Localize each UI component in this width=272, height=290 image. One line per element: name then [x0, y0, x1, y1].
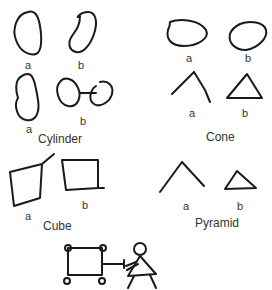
cart-box [68, 248, 102, 275]
cone-label-b-bottom: b [242, 108, 248, 119]
cone-title: Cone [206, 131, 235, 143]
pyramid-title: Pyramid [195, 217, 239, 229]
person-legs [128, 275, 156, 288]
cart-wheel [64, 278, 70, 284]
cylinder-b-top-ellipse [69, 12, 96, 52]
cone-a-profile [172, 72, 210, 102]
cube-title: Cube [43, 220, 72, 232]
cone-b-top-ellipse [230, 22, 267, 50]
cone-label-a-top: a [186, 53, 192, 64]
cone-label-a-bottom: a [189, 108, 195, 119]
person-head [134, 243, 146, 255]
cylinder-b-left-circle [57, 79, 79, 107]
cylinder-a-top-ellipse [15, 12, 42, 55]
cone-label-b-top: b [245, 53, 251, 64]
person-body [128, 256, 156, 276]
cube-label-b: b [82, 200, 88, 211]
pyramid-a [160, 162, 204, 192]
cylinder-label-b-top: b [78, 60, 84, 71]
pyramid-label-a: a [183, 201, 189, 212]
cylinder-title: Cylinder [38, 133, 82, 145]
cylinder-label-a-top: a [25, 60, 31, 71]
cube-label-a: a [25, 211, 31, 222]
pyramid-label-b: b [237, 201, 243, 212]
cart-wheel [99, 278, 105, 284]
cylinder-a-side [16, 74, 38, 120]
cone-b-triangle [227, 74, 262, 98]
cube-a [10, 154, 54, 206]
cylinder-label-b-bottom: b [80, 116, 86, 127]
cylinder-label-a-bottom: a [26, 124, 32, 135]
cube-b [62, 160, 104, 190]
pyramid-b [225, 171, 256, 189]
cone-a-top-ellipse [168, 20, 207, 46]
